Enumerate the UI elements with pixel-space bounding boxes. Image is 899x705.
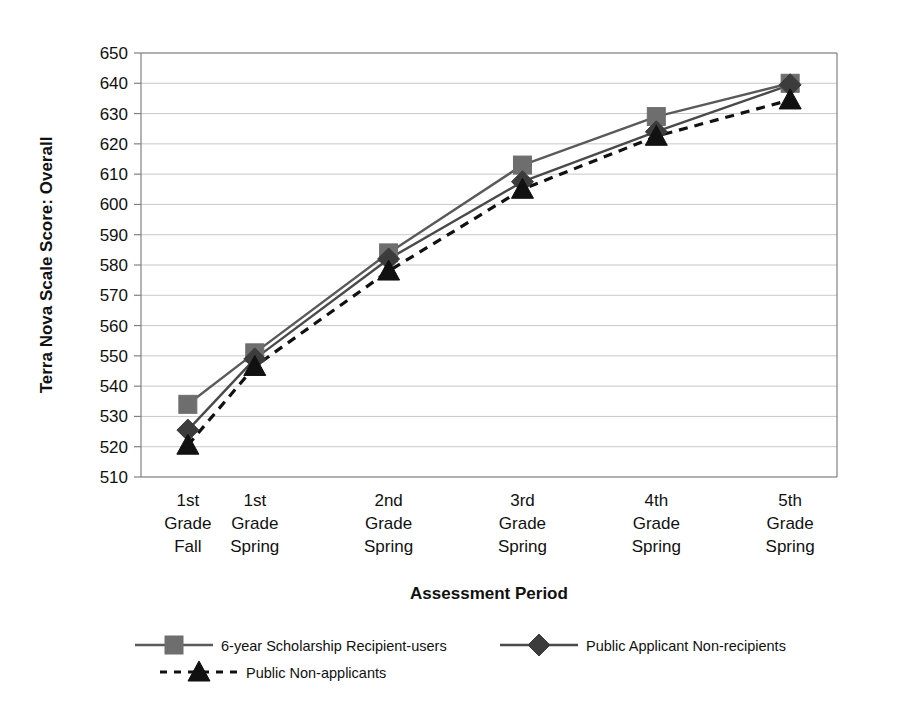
y-tick-label-650: 650	[100, 44, 128, 63]
y-tick-label-540: 540	[100, 377, 128, 396]
legend-marker-0	[165, 636, 183, 654]
legend-item-1[interactable]: Public Applicant Non-recipients	[500, 634, 786, 656]
y-axis-title: Terra Nova Scale Score: Overall	[37, 137, 56, 394]
y-tick-label-590: 590	[100, 226, 128, 245]
chart-container: 5105205305405505605705805906006106206306…	[0, 0, 899, 705]
legend-item-0[interactable]: 6-year Scholarship Recipient-users	[135, 636, 447, 654]
y-tick-label-620: 620	[100, 135, 128, 154]
y-tick-label-550: 550	[100, 347, 128, 366]
y-tick-label-630: 630	[100, 105, 128, 124]
y-tick-label-560: 560	[100, 317, 128, 336]
legend-label-1: Public Applicant Non-recipients	[586, 638, 786, 654]
y-tick-label-640: 640	[100, 74, 128, 93]
legend-label-0: 6-year Scholarship Recipient-users	[221, 638, 447, 654]
legend-label-2: Public Non-applicants	[246, 665, 386, 681]
y-axis-tick-labels: 5105205305405505605705805906006106206306…	[100, 44, 128, 487]
y-tick-label-610: 610	[100, 165, 128, 184]
y-tick-label-570: 570	[100, 286, 128, 305]
y-tick-label-510: 510	[100, 468, 128, 487]
y-tick-label-580: 580	[100, 256, 128, 275]
data-point-s0-i0	[179, 395, 197, 413]
y-tick-label-600: 600	[100, 195, 128, 214]
x-axis-title: Assessment Period	[410, 584, 568, 603]
y-tick-label-530: 530	[100, 407, 128, 426]
y-tick-label-520: 520	[100, 438, 128, 457]
terra-nova-line-chart: 5105205305405505605705805906006106206306…	[0, 0, 899, 705]
